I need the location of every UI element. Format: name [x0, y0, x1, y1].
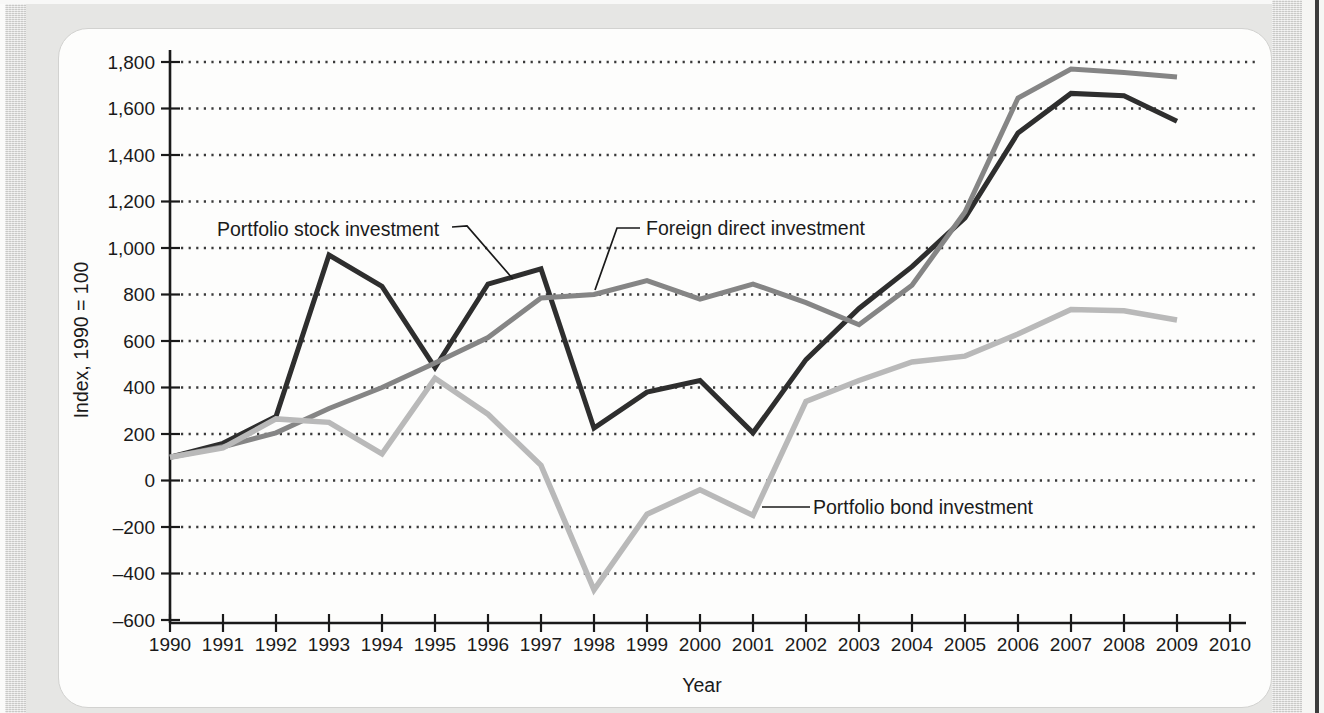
- annotation-portfolio-stock-investment: Portfolio stock investment: [217, 218, 440, 240]
- x-tick-label: 2008: [1103, 634, 1145, 655]
- annotation-portfolio-bond-investment: Portfolio bond investment: [813, 496, 1034, 518]
- y-tick-label: –600: [113, 610, 155, 631]
- y-tick-label: –200: [113, 517, 155, 538]
- x-tick-label: 1996: [467, 634, 509, 655]
- x-tick-label: 2004: [891, 634, 934, 655]
- x-tick-label: 2007: [1050, 634, 1092, 655]
- y-tick-label: 1,600: [107, 98, 155, 119]
- x-tick-label: 2006: [997, 634, 1039, 655]
- x-tick-label: 1997: [520, 634, 562, 655]
- x-tick-label: 1998: [573, 634, 615, 655]
- x-tick-label: 2002: [785, 634, 827, 655]
- y-tick-label: 600: [123, 331, 155, 352]
- callout-foreign-direct: [595, 228, 640, 290]
- y-tick-label: –400: [113, 563, 155, 584]
- x-tick-label: 1994: [361, 634, 404, 655]
- y-tick-label: 0: [144, 470, 155, 491]
- x-tick-label: 1993: [308, 634, 350, 655]
- x-tick-label: 1999: [626, 634, 668, 655]
- axis-layer: 1,8001,6001,4001,2001,0008006004002000–2…: [107, 50, 1251, 655]
- series-line-portfolio-bond-investment: [170, 310, 1177, 590]
- y-tick-label: 1,800: [107, 52, 155, 73]
- x-tick-label: 2003: [838, 634, 880, 655]
- y-tick-label: 1,400: [107, 145, 155, 166]
- y-tick-label: 1,000: [107, 238, 155, 259]
- y-tick-label: 200: [123, 424, 155, 445]
- annotation-foreign-direct-investment: Foreign direct investment: [646, 217, 866, 239]
- scanned-book-page: 1,8001,6001,4001,2001,0008006004002000–2…: [0, 0, 1324, 713]
- x-tick-label: 1992: [255, 634, 297, 655]
- callout-layer: [452, 226, 810, 507]
- y-tick-label: 400: [123, 377, 155, 398]
- y-tick-label: 800: [123, 284, 155, 305]
- x-tick-label: 1990: [149, 634, 191, 655]
- y-tick-label: 1,200: [107, 191, 155, 212]
- x-tick-label: 1995: [414, 634, 456, 655]
- y-axis-title: Index, 1990 = 100: [70, 262, 92, 419]
- callout-portfolio-stock: [452, 226, 513, 279]
- x-tick-label: 2005: [944, 634, 986, 655]
- x-tick-label: 1991: [202, 634, 244, 655]
- series-line-portfolio-stock-investment: [170, 93, 1177, 457]
- x-tick-label: 2001: [732, 634, 774, 655]
- x-axis-title: Year: [682, 674, 722, 696]
- x-tick-label: 2010: [1209, 634, 1251, 655]
- investment-index-line-chart: 1,8001,6001,4001,2001,0008006004002000–2…: [0, 0, 1324, 713]
- x-tick-label: 2000: [679, 634, 721, 655]
- x-tick-label: 2009: [1156, 634, 1198, 655]
